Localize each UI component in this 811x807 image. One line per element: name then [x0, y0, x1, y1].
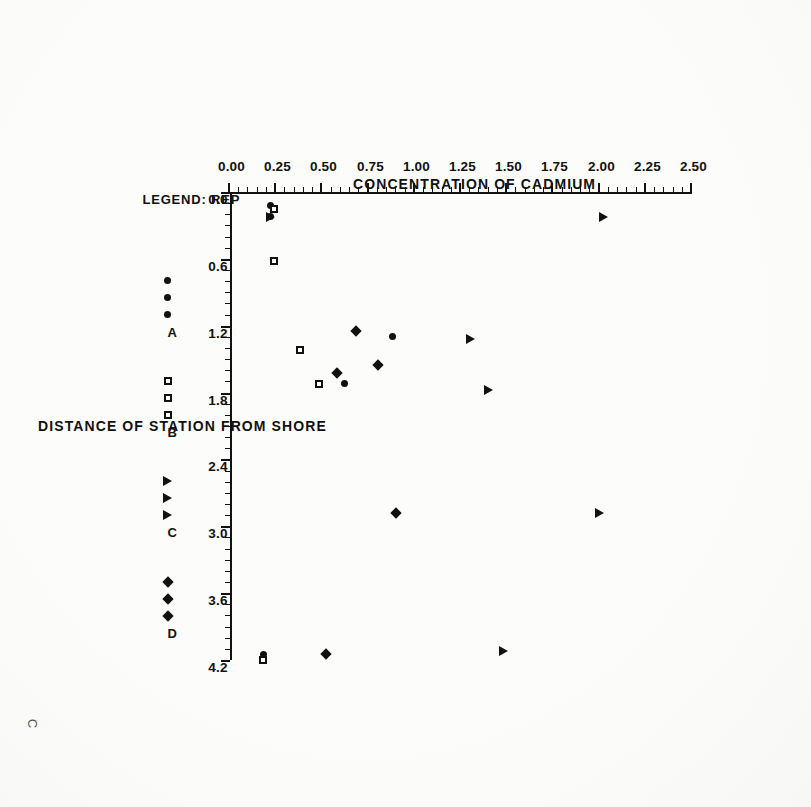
y-tick-major [228, 183, 230, 192]
x-tick-label: 1.8 [198, 392, 238, 407]
y-tick-major [597, 183, 599, 192]
x-tick-minor [225, 626, 230, 627]
x-tick-minor [225, 370, 230, 371]
legend-label-b: B [160, 424, 184, 439]
legend-symbol-b [164, 377, 172, 385]
y-tick-major [690, 183, 692, 192]
x-tick-minor [225, 515, 230, 516]
x-tick-minor [225, 414, 230, 415]
y-tick-minor [635, 187, 636, 192]
y-tick-minor [339, 187, 340, 192]
y-tick-label: 2.25 [627, 158, 667, 173]
legend-symbol-c [163, 510, 172, 520]
data-point-b [314, 379, 322, 387]
legend-label-c: C [160, 524, 184, 539]
x-tick-minor [225, 481, 230, 482]
y-tick-minor [312, 187, 313, 192]
y-tick-minor [330, 187, 331, 192]
x-tick-label: 0.6 [198, 258, 238, 273]
data-point-d [320, 648, 331, 659]
legend-title: LEGEND: REP [142, 191, 206, 206]
y-tick-major [274, 183, 276, 192]
x-tick-label: 3.6 [198, 593, 238, 608]
data-point-d [331, 366, 342, 377]
x-tick-minor [225, 637, 230, 638]
data-point-d [372, 359, 383, 370]
y-tick-minor [284, 187, 285, 192]
legend-label-d: D [160, 625, 184, 640]
x-tick-minor [225, 303, 230, 304]
data-point-c [598, 211, 607, 221]
x-tick-minor [225, 236, 230, 237]
y-tick-minor [349, 187, 350, 192]
scatter-figure: 0.00.61.21.82.43.03.64.2 0.000.250.500.7… [86, 84, 726, 724]
data-point-d [390, 507, 401, 518]
data-point-a [389, 333, 396, 340]
y-tick-minor [626, 187, 627, 192]
y-tick-label: 1.75 [534, 158, 574, 173]
y-tick-label: 2.50 [673, 158, 713, 173]
x-tick-minor [225, 281, 230, 282]
data-point-c [484, 385, 493, 395]
x-tick-minor [225, 559, 230, 560]
data-point-a [341, 380, 348, 387]
y-tick-minor [607, 187, 608, 192]
data-point-c [499, 646, 508, 656]
x-tick-label: 3.0 [198, 526, 238, 541]
data-point-b [259, 656, 267, 664]
legend-label-a: A [160, 324, 184, 339]
x-tick-minor [225, 292, 230, 293]
legend-symbol-d [162, 593, 173, 604]
y-tick-minor [663, 187, 664, 192]
y-tick-minor [256, 187, 257, 192]
x-tick-label: 2.4 [198, 459, 238, 474]
y-tick-label: 1.00 [396, 158, 436, 173]
y-tick-label: 0.75 [350, 158, 390, 173]
y-tick-major [643, 183, 645, 192]
x-tick-label: 1.2 [198, 325, 238, 340]
y-axis-title: CONCENTRATION OF CADMIUM [353, 176, 573, 192]
x-tick-minor [225, 570, 230, 571]
legend-symbol-c [163, 476, 172, 486]
y-tick-minor [265, 187, 266, 192]
data-point-d [350, 325, 361, 336]
x-tick-minor [225, 504, 230, 505]
x-tick-minor [225, 615, 230, 616]
chart-legend: LEGEND: REPABCD [146, 192, 186, 662]
x-tick-minor [225, 492, 230, 493]
legend-symbol-b [164, 394, 172, 402]
x-tick-minor [225, 348, 230, 349]
legend-symbol-d [162, 610, 173, 621]
x-tick-minor [225, 548, 230, 549]
y-tick-label: 2.00 [581, 158, 621, 173]
y-tick-minor [681, 187, 682, 192]
y-tick-label: 1.50 [488, 158, 528, 173]
x-tick-minor [225, 359, 230, 360]
y-tick-minor [293, 187, 294, 192]
x-tick-minor [225, 437, 230, 438]
x-tick-minor [225, 314, 230, 315]
x-tick-minor [225, 381, 230, 382]
data-point-c [266, 211, 275, 221]
y-tick-label: 0.50 [303, 158, 343, 173]
scanned-page-background: 0.00.61.21.82.43.03.64.2 0.000.250.500.7… [0, 0, 811, 807]
x-tick-minor [225, 448, 230, 449]
legend-symbol-a [164, 311, 171, 318]
x-tick-minor [225, 648, 230, 649]
y-tick-label: 1.25 [442, 158, 482, 173]
data-point-c [595, 507, 604, 517]
legend-symbol-a [164, 277, 171, 284]
x-tick-minor [225, 247, 230, 248]
y-tick-minor [247, 187, 248, 192]
legend-symbol-d [162, 576, 173, 587]
x-tick-minor [225, 225, 230, 226]
y-tick-minor [302, 187, 303, 192]
y-tick-minor [654, 187, 655, 192]
legend-symbol-a [164, 294, 171, 301]
data-point-c [465, 334, 474, 344]
legend-symbol-c [163, 493, 172, 503]
y-tick-label: 0.00 [211, 158, 251, 173]
data-point-b [270, 257, 278, 265]
x-tick-label: 4.2 [198, 660, 238, 675]
x-tick-minor [225, 214, 230, 215]
